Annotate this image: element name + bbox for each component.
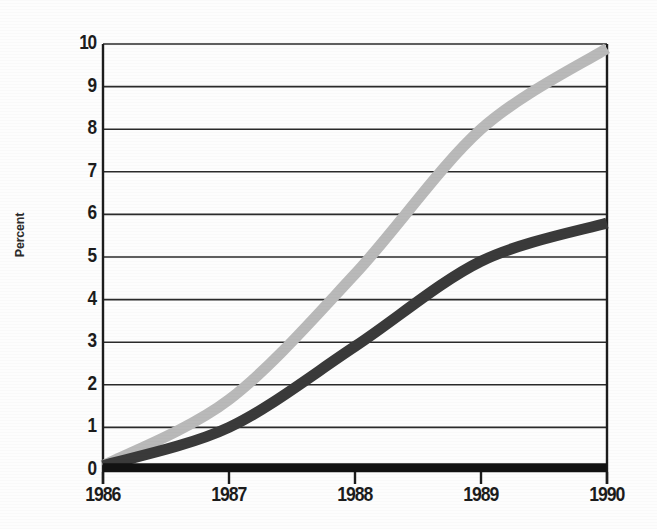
gridlines bbox=[103, 44, 607, 427]
x-tick-label: 1990 bbox=[552, 483, 657, 504]
plot-area bbox=[0, 0, 657, 529]
data-series-layer bbox=[103, 48, 607, 468]
x-tick-label: 1989 bbox=[426, 483, 536, 504]
x-axis-tick-labels: 19861987198819891990 bbox=[0, 483, 657, 529]
x-tick-label: 1988 bbox=[300, 483, 410, 504]
axis-spines bbox=[103, 44, 607, 484]
x-tick-label: 1986 bbox=[48, 483, 158, 504]
chart-container: Percent 109876543210 1986198719881989199… bbox=[0, 0, 657, 529]
x-tick-label: 1987 bbox=[174, 483, 284, 504]
